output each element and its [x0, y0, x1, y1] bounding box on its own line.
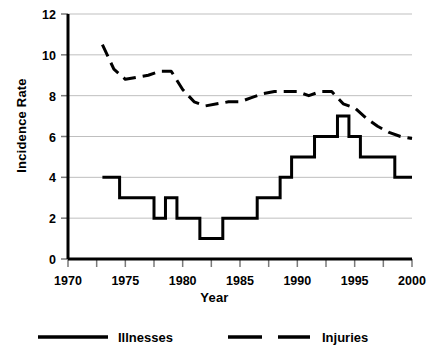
incidence-rate-line-chart: 024681012 1970197519801985199019952000 I…	[0, 0, 429, 353]
x-axis-title: Year	[0, 290, 429, 305]
y-axis-tick-label: 2	[49, 212, 56, 226]
y-axis-title: Incidence Rate	[14, 56, 29, 196]
series-line-injuries	[102, 45, 412, 139]
x-axis-tick-label: 1990	[283, 274, 311, 288]
y-axis-tick-label: 8	[49, 90, 56, 104]
x-axis-tick-label: 1975	[111, 274, 139, 288]
x-axis-tick-label: 1970	[54, 274, 82, 288]
x-axis-tick-label: 2000	[398, 274, 426, 288]
y-axis-tick-label: 6	[49, 131, 56, 145]
y-axis-tick-labels: 024681012	[42, 8, 56, 267]
x-axis-tick-labels: 1970197519801985199019952000	[54, 274, 426, 288]
y-axis-tick-label: 10	[42, 49, 56, 63]
y-axis-tick-label: 4	[49, 171, 56, 185]
x-axis-tick-label: 1985	[226, 274, 254, 288]
legend-label-injuries: Injuries	[322, 330, 368, 345]
y-axis-tick-label: 12	[42, 8, 56, 22]
y-axis-tick-label: 0	[49, 253, 56, 267]
chart-legend: Illnesses Injuries	[38, 330, 368, 345]
x-axis-tick-label: 1995	[341, 274, 369, 288]
x-axis-tick-label: 1980	[169, 274, 197, 288]
legend-label-illnesses: Illnesses	[118, 330, 173, 345]
